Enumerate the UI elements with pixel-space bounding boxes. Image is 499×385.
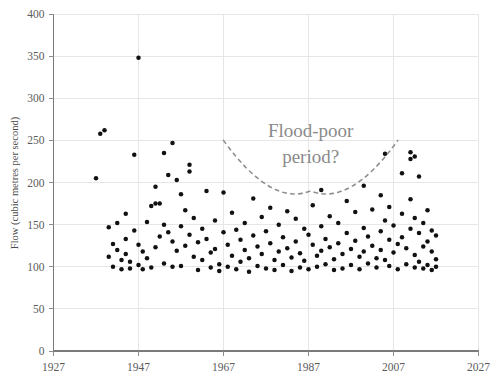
- data-point: [417, 259, 422, 264]
- data-point: [268, 206, 273, 211]
- data-point: [357, 254, 362, 259]
- data-point: [353, 238, 358, 243]
- data-point: [311, 243, 316, 248]
- data-point: [349, 263, 354, 268]
- data-point: [362, 184, 367, 189]
- data-point: [119, 267, 124, 272]
- data-point: [260, 252, 265, 256]
- data-point: [430, 228, 435, 233]
- y-tick-marks-group: [49, 14, 54, 351]
- data-point: [136, 243, 141, 248]
- data-point: [124, 211, 129, 216]
- data-point: [111, 242, 116, 247]
- y-tick-label: 50: [33, 303, 45, 315]
- data-point: [421, 266, 426, 271]
- data-point: [115, 221, 120, 226]
- data-point: [230, 254, 235, 258]
- y-tick-label: 300: [27, 92, 45, 104]
- data-point: [200, 258, 205, 263]
- data-point: [408, 150, 413, 155]
- data-point: [383, 218, 388, 223]
- data-point: [94, 176, 99, 181]
- data-point: [345, 199, 350, 204]
- data-point: [391, 223, 396, 228]
- data-point: [366, 234, 371, 239]
- data-point: [213, 247, 218, 252]
- data-point: [434, 257, 439, 262]
- y-tick-label: 400: [27, 8, 45, 20]
- data-point: [413, 216, 418, 221]
- data-point: [387, 264, 392, 269]
- data-point: [111, 265, 116, 270]
- data-point: [192, 254, 197, 259]
- data-point: [362, 249, 367, 254]
- data-point: [179, 264, 184, 269]
- data-point: [251, 233, 256, 238]
- data-point: [340, 252, 345, 256]
- data-point: [238, 259, 243, 264]
- data-point: [421, 221, 426, 226]
- data-point: [119, 258, 124, 263]
- data-point: [162, 151, 167, 156]
- data-point: [136, 263, 141, 268]
- data-point: [425, 239, 430, 244]
- data-point: [196, 268, 201, 273]
- data-point: [204, 189, 209, 194]
- y-tick-labels-group: 050100150200250300350400: [27, 8, 45, 357]
- data-point: [362, 226, 367, 231]
- annotation-line-2: period?: [282, 146, 339, 167]
- data-point: [153, 201, 158, 206]
- data-point: [311, 203, 316, 208]
- data-points-group: [94, 56, 439, 275]
- data-point: [158, 201, 163, 206]
- data-point: [374, 256, 379, 261]
- data-point: [383, 152, 388, 157]
- data-point: [328, 214, 333, 219]
- data-point: [170, 239, 175, 244]
- data-point: [264, 229, 269, 234]
- data-point: [400, 235, 405, 240]
- data-point: [379, 229, 384, 234]
- data-point: [132, 152, 137, 157]
- data-point: [340, 266, 345, 271]
- data-point: [285, 209, 290, 214]
- data-point: [264, 266, 269, 271]
- data-point: [306, 267, 311, 272]
- data-point: [102, 128, 107, 133]
- data-point: [315, 254, 320, 258]
- data-point: [128, 259, 133, 264]
- data-point: [209, 265, 214, 270]
- data-point: [298, 251, 303, 256]
- data-point: [387, 205, 392, 210]
- y-tick-label: 100: [27, 261, 45, 273]
- y-tick-label: 350: [27, 50, 45, 62]
- data-point: [153, 184, 158, 189]
- x-tick-label: 1967: [212, 361, 235, 373]
- data-point: [281, 235, 286, 240]
- data-point: [289, 269, 294, 274]
- data-point: [128, 266, 133, 271]
- x-tick-label: 2027: [467, 361, 490, 373]
- data-point: [183, 208, 188, 213]
- data-point: [98, 131, 103, 136]
- data-point: [319, 188, 324, 193]
- data-point: [158, 234, 163, 239]
- data-point: [417, 174, 422, 179]
- data-point: [298, 265, 303, 270]
- data-point: [285, 246, 290, 251]
- data-point: [204, 237, 209, 242]
- data-point: [408, 227, 413, 232]
- data-point: [115, 248, 120, 253]
- data-point: [217, 269, 222, 274]
- data-point: [166, 173, 171, 178]
- data-point: [404, 246, 409, 251]
- data-point: [323, 262, 328, 267]
- flow-scatter-figure: 050100150200250300350400 192719471967198…: [0, 0, 499, 385]
- data-point: [417, 231, 422, 236]
- data-point: [187, 169, 192, 174]
- data-point: [425, 263, 430, 268]
- data-point: [272, 258, 277, 263]
- data-point: [145, 256, 150, 261]
- data-point: [336, 241, 341, 246]
- data-point: [315, 265, 320, 270]
